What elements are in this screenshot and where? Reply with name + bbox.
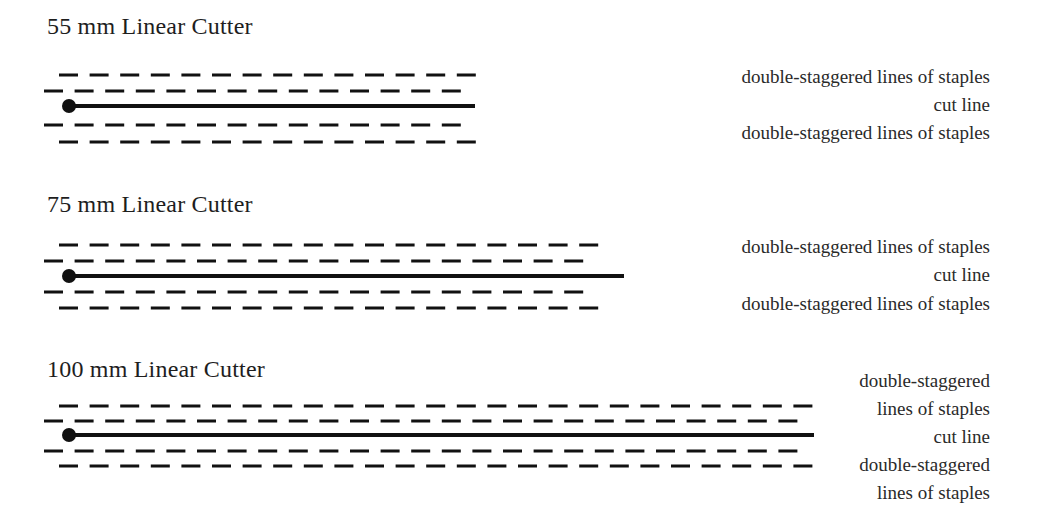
staple-row	[59, 307, 598, 310]
staple-dash	[243, 405, 262, 408]
staple-dash	[411, 260, 430, 263]
staple-dash	[166, 420, 185, 423]
staple-dash	[243, 244, 262, 247]
staple-dash	[304, 405, 323, 408]
cut-start-dot-icon	[62, 428, 76, 442]
staple-dash	[487, 244, 506, 247]
staple-dash	[381, 450, 400, 453]
staple-dash	[411, 291, 430, 294]
cutter-diagram-0	[44, 74, 476, 144]
cut-line	[69, 274, 624, 278]
staple-line-label: lines of staples	[877, 482, 990, 504]
staple-dash	[396, 141, 415, 144]
staple-dash	[136, 291, 155, 294]
staple-dash	[442, 124, 461, 127]
staple-dash	[243, 465, 262, 468]
staple-dash	[105, 450, 124, 453]
staple-dash	[426, 244, 445, 247]
staple-dash	[44, 450, 63, 453]
staple-dash	[304, 465, 323, 468]
staple-dash	[59, 465, 78, 468]
staple-dash	[549, 465, 568, 468]
staple-dash	[732, 405, 751, 408]
staple-dash	[105, 291, 124, 294]
staple-dash	[534, 291, 553, 294]
staple-dash	[610, 465, 629, 468]
staple-dash	[426, 405, 445, 408]
staple-dash	[365, 307, 384, 310]
staple-dash	[487, 405, 506, 408]
staple-dash	[564, 450, 583, 453]
staple-dash	[778, 420, 797, 423]
staple-dash	[44, 124, 63, 127]
staple-dash	[625, 450, 644, 453]
staple-row	[44, 90, 461, 93]
staple-dash	[304, 74, 323, 77]
staple-row	[59, 244, 598, 247]
staple-dash	[472, 260, 491, 263]
staple-dash	[273, 307, 292, 310]
staple-dash	[44, 260, 63, 263]
cut-start-dot-icon	[62, 269, 76, 283]
staple-dash	[457, 74, 476, 77]
staple-dash	[181, 405, 200, 408]
staple-dash	[319, 124, 338, 127]
staple-dash	[243, 74, 262, 77]
staple-dash	[243, 307, 262, 310]
staple-dash	[90, 465, 109, 468]
staple-dash	[289, 90, 308, 93]
staple-dash	[197, 291, 216, 294]
staple-dash	[75, 124, 94, 127]
staple-dash	[365, 465, 384, 468]
staple-dash	[640, 405, 659, 408]
staple-dash	[273, 405, 292, 408]
cutter-diagram-2	[44, 405, 814, 468]
staple-dash	[90, 74, 109, 77]
staple-row	[44, 124, 461, 127]
staple-dash	[518, 405, 537, 408]
staple-row	[44, 420, 797, 423]
staple-dash	[166, 450, 185, 453]
staple-dash	[732, 465, 751, 468]
staple-dash	[763, 405, 782, 408]
staple-dash	[365, 405, 384, 408]
staple-dash	[258, 124, 277, 127]
staple-dash	[350, 420, 369, 423]
staple-dash	[228, 90, 247, 93]
staple-dash	[258, 90, 277, 93]
staple-dash	[273, 244, 292, 247]
staple-dash	[319, 450, 338, 453]
staple-row	[44, 291, 583, 294]
staple-dash	[503, 260, 522, 263]
staple-dash	[381, 420, 400, 423]
staple-dash	[75, 450, 94, 453]
staple-dash	[212, 465, 231, 468]
staple-dash	[59, 141, 78, 144]
staple-dash	[656, 450, 675, 453]
staple-row	[59, 405, 812, 408]
staple-dash	[518, 244, 537, 247]
staple-dash	[166, 90, 185, 93]
staple-dash	[258, 450, 277, 453]
staple-line-label: double-staggered lines of staples	[741, 236, 990, 258]
cutter-title: 55 mm Linear Cutter	[47, 12, 253, 40]
staple-dash	[625, 420, 644, 423]
staple-dash	[442, 260, 461, 263]
staple-dash	[748, 450, 767, 453]
staple-row	[59, 141, 476, 144]
staple-dash	[136, 124, 155, 127]
staple-dash	[319, 420, 338, 423]
staple-dash	[59, 307, 78, 310]
cut-line-label: cut line	[934, 264, 990, 286]
staple-row	[59, 74, 476, 77]
cut-line	[69, 433, 814, 437]
staple-dash	[702, 405, 721, 408]
staple-dash	[120, 465, 139, 468]
staple-line-label: double-staggered lines of staples	[741, 66, 990, 88]
staple-dash	[564, 260, 583, 263]
staple-dash	[702, 465, 721, 468]
staple-dash	[748, 420, 767, 423]
staple-dash	[411, 420, 430, 423]
staple-dash	[289, 420, 308, 423]
staple-dash	[518, 465, 537, 468]
